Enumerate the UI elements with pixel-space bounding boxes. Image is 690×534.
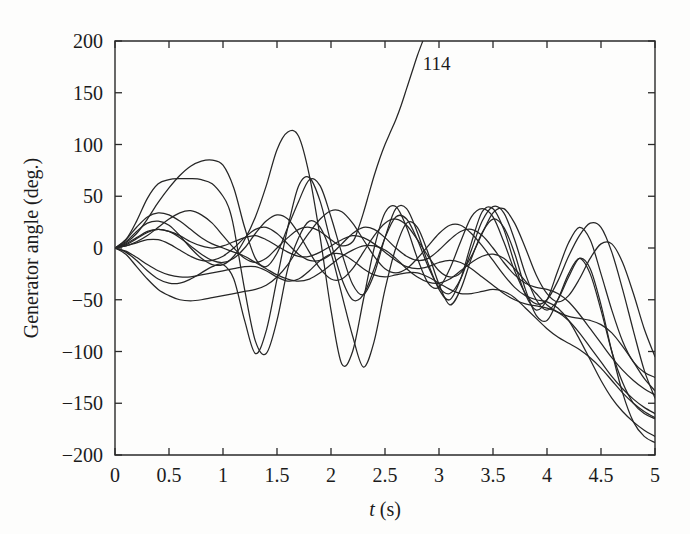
y-tick-label: 100 [73, 134, 103, 156]
y-tick-label: 0 [93, 237, 103, 259]
x-tick-label: 0.5 [157, 464, 182, 486]
y-axis-title: Generator angle (deg.) [20, 158, 43, 338]
x-tick-label: 0 [110, 464, 120, 486]
x-tick-label: 2 [326, 464, 336, 486]
y-tick-label: −200 [62, 444, 103, 466]
x-tick-label: 3 [434, 464, 444, 486]
x-tick-label: 4 [542, 464, 552, 486]
y-tick-label: 200 [73, 30, 103, 52]
y-tick-label: 50 [83, 185, 103, 207]
annotation-label: 114 [423, 53, 451, 74]
x-tick-label: 2.5 [373, 464, 398, 486]
y-tick-label: 150 [73, 82, 103, 104]
x-tick-label: 3.5 [481, 464, 506, 486]
generator-angle-plot: 00.511.522.533.544.55 −200−150−100−50050… [0, 0, 690, 534]
x-tick-label: 5 [650, 464, 660, 486]
x-tick-label: 1 [218, 464, 228, 486]
figure-container: 00.511.522.533.544.55 −200−150−100−50050… [0, 0, 690, 534]
y-tick-label: −50 [72, 289, 103, 311]
x-tick-label: 4.5 [589, 464, 614, 486]
x-axis-title: t (s) [369, 498, 401, 521]
y-tick-label: −150 [62, 392, 103, 414]
y-tick-label: −100 [62, 341, 103, 363]
annotation-group: 114 [423, 53, 451, 74]
x-tick-label: 1.5 [265, 464, 290, 486]
